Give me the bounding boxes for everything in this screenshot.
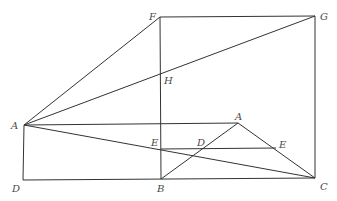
segment-a1-c <box>24 125 315 178</box>
point-label-a1: A <box>10 120 18 131</box>
point-label-f: F <box>148 11 157 22</box>
segment-a1-g <box>24 16 315 125</box>
point-label-b: B <box>156 183 164 194</box>
point-label-a2: A <box>234 111 242 122</box>
point-label-d2: D <box>11 183 20 194</box>
diagram-labels: FGHAAEDEDBC <box>10 11 328 194</box>
point-label-e2: E <box>278 139 287 150</box>
point-label-g: G <box>320 11 328 22</box>
point-label-e1: E <box>150 137 159 148</box>
point-label-h: H <box>163 75 173 86</box>
segment-a2-c <box>238 123 315 178</box>
point-label-d1: D <box>196 137 205 148</box>
segment-a1-f <box>24 17 160 125</box>
segment-f-g <box>160 16 315 17</box>
segment-a1-d2 <box>23 125 24 180</box>
segment-b-a2 <box>161 123 238 179</box>
point-label-c: C <box>320 181 328 192</box>
segment-e1-e2 <box>161 148 276 149</box>
segment-a1-a2 <box>24 123 238 125</box>
diagram-segments <box>23 16 315 180</box>
segment-d2-c <box>23 178 315 180</box>
segment-f-b <box>160 17 161 179</box>
geometry-diagram: FGHAAEDEDBC <box>0 0 337 201</box>
